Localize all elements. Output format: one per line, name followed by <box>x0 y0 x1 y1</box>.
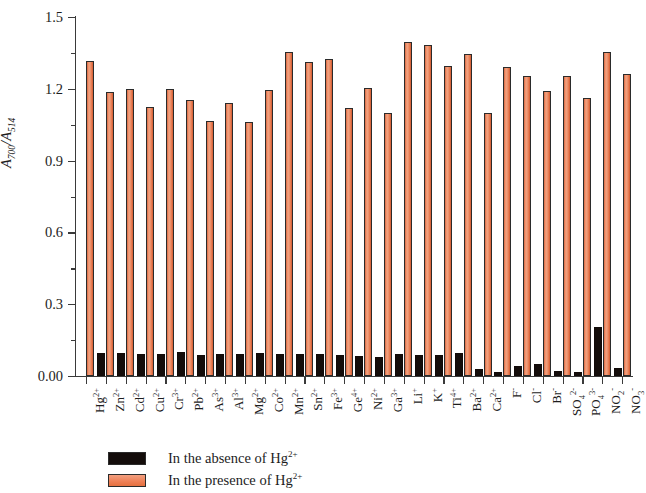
x-tick-mark <box>404 377 405 384</box>
bar-absence <box>435 355 443 376</box>
bar-presence <box>225 103 233 376</box>
bar-absence <box>97 353 105 376</box>
bar-group <box>316 17 333 376</box>
bar-absence <box>415 355 423 376</box>
bar-presence <box>444 66 452 376</box>
x-tick-label: Cl- <box>528 388 545 403</box>
bar-group <box>197 17 214 376</box>
bar-group <box>137 17 154 376</box>
bar-absence <box>236 354 244 376</box>
bar-presence <box>543 91 551 376</box>
x-tick-label: Al3+ <box>230 388 247 410</box>
x-tick-label: Ti4+ <box>448 388 465 408</box>
legend-item: In the absence of Hg2+ <box>108 447 302 469</box>
x-tick-mark <box>344 377 345 384</box>
x-axis-line <box>75 376 633 377</box>
bar-absence <box>475 369 483 376</box>
bar-absence <box>197 355 205 376</box>
x-tick-label: Ge4+ <box>349 388 366 412</box>
y-tick-mark <box>68 304 75 305</box>
x-tick-label: PO43- <box>587 388 606 416</box>
x-tick-label: Cr3+ <box>170 388 187 410</box>
x-tick-label: As3+ <box>210 388 227 412</box>
x-tick-label: Br- <box>548 388 565 404</box>
bar-presence <box>583 98 591 376</box>
bar-absence <box>137 354 145 376</box>
bar-group <box>296 17 313 376</box>
bar-absence <box>256 353 264 376</box>
bar-absence <box>316 354 324 376</box>
bar-absence <box>276 354 284 376</box>
bar-absence <box>375 357 383 376</box>
x-tick-label: Ni2+ <box>369 388 386 410</box>
x-tick-label: Ba2+ <box>468 388 485 412</box>
bar-presence <box>364 88 372 376</box>
bar-presence <box>384 113 392 376</box>
bar-group <box>256 17 273 376</box>
x-tick-label: Zn2+ <box>111 388 128 412</box>
bar-presence <box>206 121 214 376</box>
y-tick-mark <box>68 17 75 18</box>
x-tick-mark <box>86 377 87 384</box>
bar-presence <box>166 89 174 376</box>
x-tick-mark <box>384 377 385 384</box>
y-tick-mark <box>68 232 75 233</box>
y-tick-label: 0.3 <box>45 296 63 313</box>
x-tick-mark <box>185 377 186 384</box>
bar-group <box>375 17 392 376</box>
x-tick-mark <box>324 377 325 384</box>
bar-group <box>554 17 571 376</box>
bar-presence <box>186 100 194 376</box>
bar-group <box>594 17 611 376</box>
x-tick-label: Ca2+ <box>488 388 505 412</box>
y-tick-label: 0.6 <box>45 224 63 241</box>
x-tick-label: K+ <box>429 388 446 402</box>
bar-group <box>475 17 492 376</box>
x-tick-label: Fe3+ <box>329 388 346 410</box>
x-tick-mark <box>463 377 464 384</box>
y-tick-label: 1.5 <box>45 9 63 26</box>
x-tick-mark <box>424 377 425 384</box>
bar-absence <box>395 354 403 376</box>
bar-presence <box>106 92 114 376</box>
bar-group <box>574 17 591 376</box>
x-tick-label: SO42- <box>568 388 587 416</box>
bar-group <box>77 17 94 376</box>
bar-presence <box>404 42 412 376</box>
x-tick-label: NO3- <box>627 388 646 414</box>
x-tick-mark <box>165 377 166 384</box>
bar-absence <box>455 353 463 376</box>
x-tick-label: Li+ <box>409 388 426 404</box>
bar-group <box>415 17 432 376</box>
x-tick-mark <box>126 377 127 384</box>
x-tick-mark <box>106 377 107 384</box>
bar-presence <box>484 113 492 376</box>
bar-presence <box>623 74 631 376</box>
x-tick-label: Cu2+ <box>151 388 168 412</box>
y-tick-label: 0.00 <box>38 368 63 385</box>
y-tick-mark <box>71 53 76 54</box>
bar-group <box>336 17 353 376</box>
bar-group <box>157 17 174 376</box>
bar-presence <box>523 76 531 376</box>
legend-label: In the presence of Hg2+ <box>168 471 302 489</box>
bar-absence <box>177 352 185 376</box>
y-tick-mark <box>68 89 75 90</box>
bar-absence <box>514 366 522 376</box>
x-tick-mark <box>483 377 484 384</box>
bar-group <box>514 17 531 376</box>
bar-absence <box>296 354 304 376</box>
bar-absence <box>594 327 602 376</box>
x-tick-mark <box>443 377 444 384</box>
legend-swatch-absence <box>108 452 146 465</box>
x-tick-mark <box>364 377 365 384</box>
x-tick-mark <box>622 377 623 384</box>
x-tick-mark <box>563 377 564 384</box>
bar-group <box>355 17 372 376</box>
bar-absence <box>554 371 562 376</box>
y-tick-label: 1.2 <box>45 80 63 97</box>
bar-absence <box>336 355 344 376</box>
bar-presence <box>245 122 253 376</box>
x-tick-mark <box>543 377 544 384</box>
bar-absence <box>157 354 165 376</box>
